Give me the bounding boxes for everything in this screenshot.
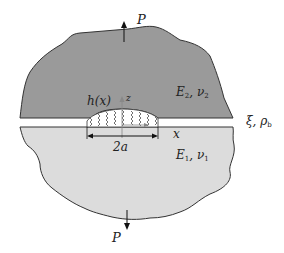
upper-body <box>20 26 233 118</box>
load-label-bottom: P <box>112 231 121 244</box>
gap-function-label: h(x) <box>87 95 111 107</box>
lower-material-label: E1, ν1 <box>176 149 209 163</box>
x-axis-label: x <box>173 128 180 140</box>
load-label-top: P <box>137 13 146 26</box>
bond-params-label: ξ, ρb <box>246 115 272 129</box>
contact-width-label: 2a <box>113 141 128 153</box>
contact-diagram <box>0 0 284 253</box>
load-arrowhead-bottom <box>124 223 130 230</box>
upper-material-label: E2, ν2 <box>176 86 209 100</box>
load-arrowhead-top <box>121 21 127 28</box>
z-axis-label: z <box>126 94 131 103</box>
